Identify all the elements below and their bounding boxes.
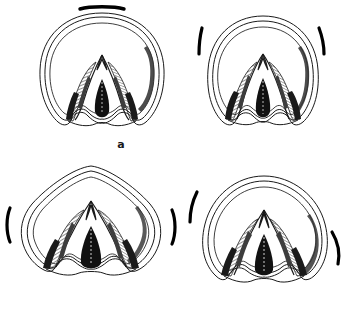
figure-panel-c: c bbox=[2, 160, 180, 285]
panel-a-central-blade bbox=[95, 79, 109, 117]
figure-panel-a: a bbox=[22, 2, 182, 140]
panel-d-tick-upper-left bbox=[190, 192, 197, 222]
panel-c-right-wedge bbox=[98, 210, 139, 269]
panel-d-tick-lower-right bbox=[332, 232, 339, 264]
panel-c-left-wedge bbox=[43, 210, 84, 269]
panel-c-central-blade bbox=[81, 226, 101, 268]
panel-b-tick-upper-left bbox=[199, 28, 202, 54]
panel-b-central-blade bbox=[256, 78, 270, 117]
panel-c-tick-right bbox=[172, 210, 175, 244]
panel-c-tick-left bbox=[7, 208, 10, 242]
panel-a-tick-top bbox=[80, 7, 124, 9]
panel-b-tick-upper-right bbox=[319, 28, 324, 54]
panel-b-drawing bbox=[188, 8, 338, 140]
panel-c-drawing bbox=[2, 160, 180, 285]
panel-d-drawing bbox=[186, 170, 344, 292]
panel-a-rim-shadow bbox=[138, 46, 154, 112]
figure-panel-d: d bbox=[186, 170, 344, 292]
figure-canvas: a bbox=[0, 0, 345, 315]
figure-panel-b: b bbox=[188, 8, 338, 140]
panel-a-drawing bbox=[22, 2, 182, 140]
panel-a-label: a bbox=[111, 139, 131, 151]
panel-c-basal-edge bbox=[46, 269, 136, 275]
panel-d-central-blade bbox=[255, 234, 273, 275]
